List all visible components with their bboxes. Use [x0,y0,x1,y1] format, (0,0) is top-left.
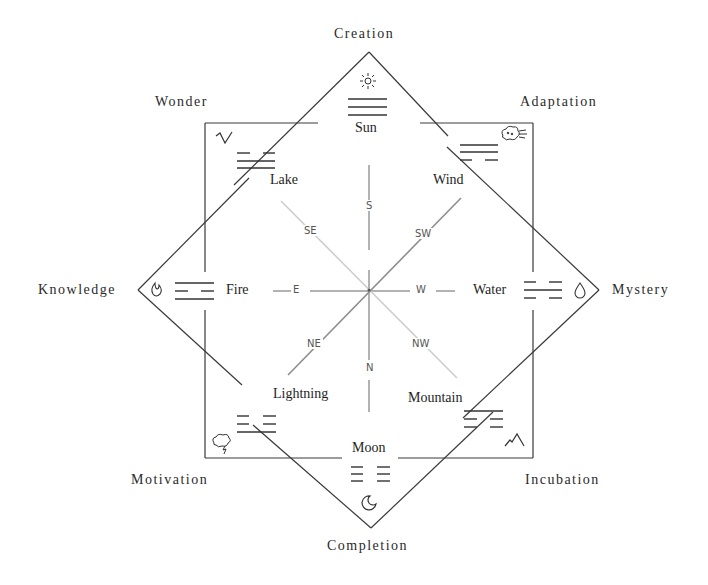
trigram-label-lake: Lake [270,172,298,188]
trigram-moon-lines [351,467,390,481]
trigram-lake-lines [237,153,275,168]
flame-icon [152,283,161,296]
label-motivation: Motivation [131,472,208,488]
trigram-label-mountain: Mountain [408,390,462,406]
direction-ne: NE [305,338,323,349]
trigram-label-moon: Moon [352,440,385,456]
direction-s: S [364,200,374,211]
label-knowledge: Knowledge [38,282,116,298]
label-wonder: Wonder [155,94,208,110]
label-mystery: Mystery [612,282,669,298]
trigram-label-wind: Wind [433,172,464,188]
trigram-sun-lines [348,99,387,115]
trigram-mountain-lines [464,411,503,427]
trigram-water-lines [524,282,562,298]
mountain-icon [505,434,524,446]
water-drop-icon [575,283,585,298]
label-creation: Creation [334,26,394,42]
trigram-label-sun: Sun [355,120,377,136]
label-adaptation: Adaptation [520,94,597,110]
trigram-lightning-lines [237,416,276,432]
lake-wave-icon [216,132,232,143]
direction-sw: SW [413,228,433,239]
direction-nw: NW [410,338,431,349]
label-incubation: Incubation [525,472,600,488]
label-completion: Completion [327,538,408,554]
trigram-wind-lines [460,145,498,160]
trigram-label-water: Water [473,282,506,298]
crescent-moon-icon [362,496,376,510]
direction-se: SE [302,225,319,236]
thunder-cloud-icon [213,434,230,454]
direction-n: N [364,362,375,373]
trigram-label-lightning: Lightning [273,386,328,402]
wind-cloud-icon [502,126,527,139]
trigram-fire-lines [175,283,214,299]
trigram-label-fire: Fire [226,282,249,298]
sun-icon [360,73,376,89]
direction-e: E [291,284,301,295]
direction-w: W [414,284,428,295]
